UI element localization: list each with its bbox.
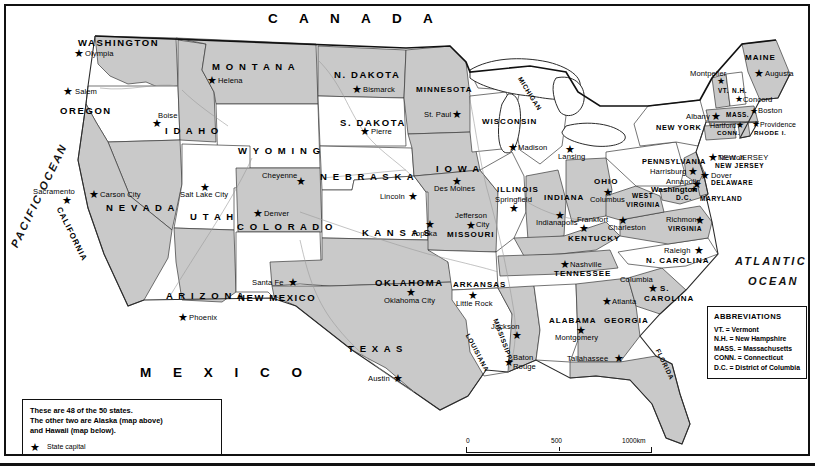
ocean-label-atlantic-1: ATLANTIC — [735, 256, 807, 267]
capital-star-boston: ★ — [750, 108, 757, 115]
capital-label-santa-fe: Santa Fe — [252, 279, 284, 287]
capital-label-oklahoma-city: Oklahoma City — [384, 297, 435, 305]
state-label-oregon: OREGON — [60, 106, 112, 116]
capital-label-frankfort: Frankfort — [577, 216, 608, 224]
state-label-ohio: OHIO — [594, 178, 618, 186]
state-label-colorado: C O L O R A D O — [237, 222, 334, 232]
capital-label-boston: Boston — [758, 107, 782, 115]
scale-label-1000: 1000km — [622, 437, 645, 444]
capital-star-concord: ★ — [735, 96, 742, 103]
capital-label-des-moines: Des Moines — [434, 185, 475, 193]
scale-label-0: 0 — [466, 437, 470, 444]
capital-star-st-paul: ★ — [452, 110, 461, 119]
bottom-rule — [0, 463, 815, 466]
state-label-alabama: ALABAMA — [549, 317, 596, 325]
country-label-mexico: M E X I C O — [140, 366, 311, 380]
capital-star-austin: ★ — [393, 374, 402, 383]
capital-label-atlanta: Atlanta — [612, 298, 636, 306]
abbreviations-list: VT. = Vermont N.H. = New Hampshire MASS.… — [714, 325, 801, 372]
abbreviation-item-conn: CONN. = Connecticut — [714, 353, 801, 362]
state-label-illinois: ILLINOIS — [497, 186, 539, 194]
capital-star-jackson: ★ — [512, 331, 521, 340]
capital-label-jackson: Jackson — [491, 323, 520, 331]
state-label-kentucky: KENTUCKY — [568, 235, 620, 243]
state-label-montana: M O N T A N A — [212, 62, 296, 72]
capital-label-indianapolis: Indianapolis — [536, 219, 578, 227]
capital-star-olympia: ★ — [74, 49, 83, 58]
state-label-utah: U T A H — [190, 212, 235, 222]
capital-label-albany: Albany — [686, 113, 710, 121]
capital-label-richmond: Richmond — [666, 216, 701, 224]
capital-star-phoenix: ★ — [178, 313, 187, 322]
capital-label-little-rock: Little Rock — [456, 300, 493, 308]
capital-label-jefferson-city-1: Jefferson — [455, 212, 487, 220]
note-line-3: and Hawaii (map below). — [30, 426, 214, 436]
capital-label-columbia: Columbia — [620, 276, 653, 284]
capital-star-frankfort: ★ — [579, 224, 588, 233]
capital-star-helena: ★ — [207, 76, 216, 85]
capital-label-boise: Boise — [158, 112, 178, 120]
capital-star-pierre: ★ — [360, 127, 369, 136]
scale-label-500: 500 — [551, 437, 562, 444]
state-label-minnesota: MINNESOTA — [416, 86, 472, 94]
state-label-wyoming: W Y O M I N G — [238, 146, 322, 156]
scale-bar-line — [466, 447, 652, 453]
state-label-maine: MAINE — [745, 54, 776, 62]
state-label-arkansas: ARKANSAS — [453, 281, 506, 289]
capital-star-montpelier: ★ — [717, 78, 724, 85]
capital-star-topeka: ★ — [425, 220, 434, 229]
capital-label-baton-rouge-1: Baton — [513, 354, 533, 362]
capital-label-madison: Madison — [518, 144, 547, 152]
capital-label-hartford: Hartford — [710, 122, 736, 129]
capital-label-trenton-text: Trenton — [718, 154, 745, 162]
state-label-new-mexico: NEW MEXICO — [238, 293, 316, 303]
state-label-indiana: INDIANA — [544, 194, 584, 202]
capital-label-sacramento: Sacramento — [33, 188, 75, 196]
capital-label-topeka: Topeka — [412, 230, 437, 238]
ocean-label-atlantic-2: OCEAN — [748, 276, 799, 287]
capital-label-tallahassee: Tallahassee — [567, 355, 608, 363]
capital-star-providence: ★ — [752, 121, 759, 128]
capital-label-montgomery: Montgomery — [555, 334, 598, 342]
abbreviations-panel: ABBREVIATIONS VT. = Vermont N.H. = New H… — [707, 306, 807, 379]
state-label-nebraska: N E B R A S K A — [320, 172, 415, 182]
state-label-iowa: I O W A — [436, 164, 481, 174]
capital-star-lincoln: ★ — [408, 192, 417, 201]
capital-star-carson-city: ★ — [89, 190, 98, 199]
capital-star-harrisburg: ★ — [688, 167, 697, 176]
state-label-mass: MASS. — [726, 112, 749, 118]
state-label-n-carolina: N. CAROLINA — [646, 257, 709, 265]
state-label-s-carolina-2: CAROLINA — [644, 295, 694, 303]
capital-star-bismarck: ★ — [352, 85, 361, 94]
capital-label-concord: Concord — [743, 96, 772, 104]
capital-label-columbus: Columbus — [590, 196, 625, 204]
map-scale-bar: 0 500 1000km — [466, 437, 652, 453]
us-states-map: .s-sh{fill:#c9c9c9;stroke:#3a3a3a;stroke… — [0, 0, 815, 471]
capital-label-providence: Providence — [760, 121, 796, 128]
map-note-panel: These are 48 of the 50 states. The other… — [22, 399, 222, 455]
state-label-georgia: GEORGIA — [604, 317, 649, 325]
capital-star-washington-dc: ★ — [690, 186, 697, 193]
capital-label-austin: Austin — [368, 375, 390, 383]
capital-star-madison: ★ — [508, 143, 517, 152]
capital-star-tallahassee: ★ — [614, 354, 623, 363]
state-label-texas: T E X A S — [348, 344, 404, 354]
state-label-virginia-2: VIRGINIA — [626, 202, 660, 209]
capital-label-jefferson-city-2: City — [476, 221, 489, 229]
state-label-virginia: VIRGINIA — [668, 226, 702, 233]
state-label-rhode-island: RHODE I. — [754, 130, 786, 136]
state-label-vt: VT. — [718, 88, 729, 94]
state-label-delaware: DELAWARE — [711, 180, 753, 187]
scale-tick-labels: 0 500 1000km — [466, 437, 652, 447]
abbreviation-item-mass: MASS. = Massachusetts — [714, 344, 801, 353]
state-label-tennessee: TENNESSEE — [554, 270, 611, 278]
state-label-conn: CONN. — [717, 130, 740, 136]
capital-label-nashville: Nashville — [570, 261, 602, 269]
country-label-canada: C A N A D A — [268, 12, 442, 26]
abbreviation-item-vt: VT. = Vermont — [714, 325, 801, 334]
capital-star-nashville: ★ — [560, 260, 569, 269]
note-line-1: These are 48 of the 50 states. — [30, 406, 214, 416]
state-label-new-jersey: NEW JERSEY — [715, 163, 764, 170]
capital-label-montpelier: Montpelier — [690, 70, 726, 78]
capital-star-albany: ★ — [711, 112, 720, 121]
